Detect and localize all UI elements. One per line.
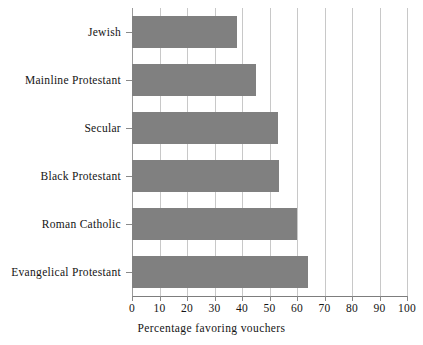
bar-row	[132, 112, 278, 144]
bar-jewish	[132, 16, 237, 48]
y-tick-mark	[126, 176, 132, 177]
bar-row	[132, 208, 297, 240]
x-tick-label-40: 40	[227, 301, 257, 315]
bar-secular	[132, 112, 278, 144]
gridline-30	[215, 8, 216, 296]
y-axis-label-secular: Secular	[0, 122, 121, 134]
gridline-10	[160, 8, 161, 296]
gridline-40	[242, 8, 243, 296]
y-axis-label-evangelical-protestant: Evangelical Protestant	[0, 266, 121, 278]
x-tick-label-70: 70	[310, 301, 340, 315]
y-tick-mark	[126, 272, 132, 273]
bar-row	[132, 160, 279, 192]
y-axis-label-mainline-protestant: Mainline Protestant	[0, 74, 121, 86]
y-tick-mark	[126, 32, 132, 33]
gridline-20	[187, 8, 188, 296]
x-tick-label-90: 90	[365, 301, 395, 315]
x-tick-label-30: 30	[200, 301, 230, 315]
x-axis-title: Percentage favoring vouchers	[0, 322, 423, 334]
x-tick-label-50: 50	[255, 301, 285, 315]
x-tick-label-80: 80	[337, 301, 367, 315]
x-tick-label-10: 10	[145, 301, 175, 315]
gridline-60	[297, 8, 298, 296]
bar-roman-catholic	[132, 208, 297, 240]
y-axis-label-black-protestant: Black Protestant	[0, 170, 121, 182]
gridline-70	[325, 8, 326, 296]
y-tick-mark	[126, 128, 132, 129]
gridline-0	[132, 8, 133, 296]
x-tick-label-0: 0	[117, 301, 147, 315]
y-tick-mark	[126, 224, 132, 225]
gridline-80	[352, 8, 353, 296]
x-tick-label-100: 100	[392, 301, 422, 315]
bar-black-protestant	[132, 160, 279, 192]
x-tick-label-20: 20	[172, 301, 202, 315]
bar-row	[132, 64, 256, 96]
gridline-50	[270, 8, 271, 296]
plot-area	[132, 8, 407, 296]
y-axis-label-jewish: Jewish	[0, 26, 121, 38]
y-tick-mark	[126, 80, 132, 81]
gridline-100	[407, 8, 408, 296]
bar-mainline-protestant	[132, 64, 256, 96]
bar-row	[132, 16, 237, 48]
y-axis-label-roman-catholic: Roman Catholic	[0, 218, 121, 230]
gridline-90	[380, 8, 381, 296]
bar-chart: JewishMainline ProtestantSecularBlack Pr…	[0, 0, 423, 345]
x-tick-label-60: 60	[282, 301, 312, 315]
bar-evangelical-protestant	[132, 256, 308, 288]
bar-row	[132, 256, 308, 288]
